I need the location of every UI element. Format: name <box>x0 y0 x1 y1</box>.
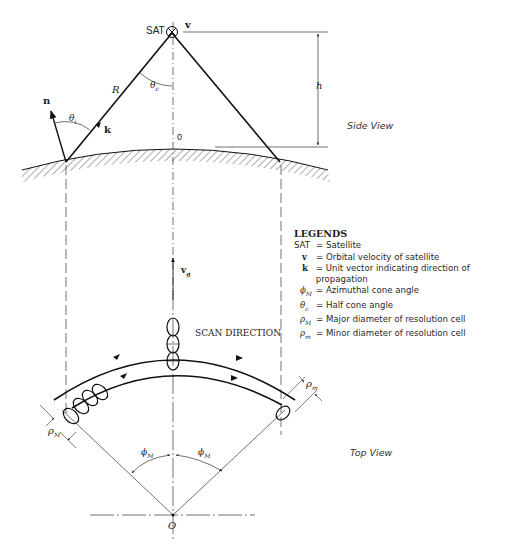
resolution-cell <box>89 381 110 402</box>
legend-item: k = Unit vector indicating direction of … <box>294 263 521 286</box>
earth-hatching <box>22 149 330 182</box>
legend-item: θc = Half cone angle <box>294 300 521 314</box>
legend-item: ϕM = Azimuthal cone angle <box>294 285 521 299</box>
resolution-cell <box>273 403 292 422</box>
scan-arc-inner <box>72 376 282 408</box>
range-label: R <box>112 84 120 95</box>
satellite-label: SAT <box>146 25 165 36</box>
legend-item: v = Orbital velocity of satellite <box>294 252 521 263</box>
side-view-label: Side View <box>347 120 393 131</box>
height-label: h <box>316 80 322 91</box>
ground-velocity-label: vg <box>181 265 190 277</box>
legend-item: ρm = Minor diameter of resolution cell <box>294 328 521 342</box>
range-line-right <box>172 33 280 162</box>
top-view-label: Top View <box>350 447 392 458</box>
minor-diameter-label: ρm <box>306 378 318 391</box>
legend: LEGENDS SAT = Satellite v = Orbital velo… <box>294 228 521 342</box>
azimuth-left-label: ϕM <box>141 447 153 459</box>
major-diameter-label: ρM <box>48 425 60 438</box>
legend-title: LEGENDS <box>294 228 521 239</box>
normal-vector <box>51 111 66 162</box>
azimuth-line-left <box>62 410 173 515</box>
normal-vector-label: n <box>43 95 50 106</box>
legend-item: SAT = Satellite <box>294 240 521 251</box>
azimuth-right-label: ϕM <box>198 447 210 459</box>
scan-direction-label: SCAN DIRECTION <box>195 328 281 338</box>
legend-item: ρM = Major diameter of resolution cell <box>294 314 521 328</box>
resolution-cell <box>60 405 81 426</box>
range-line-left <box>66 33 172 162</box>
azimuth-line-right <box>173 410 285 515</box>
half-cone-angle-label: θc <box>150 80 159 92</box>
nadir-label: 0 <box>177 132 182 142</box>
origin-label: O <box>168 520 176 531</box>
velocity-label: v <box>185 19 191 30</box>
top-view <box>40 258 322 540</box>
side-view <box>22 22 330 435</box>
incidence-angle-label: θi <box>69 113 76 125</box>
propagation-vector-label: k <box>104 124 111 135</box>
